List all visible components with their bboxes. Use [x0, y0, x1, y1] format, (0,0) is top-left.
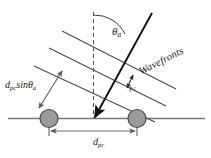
element-right [128, 110, 146, 128]
element-left [40, 110, 58, 128]
wavefront-line-2 [49, 48, 166, 106]
path-difference-label: dpcsinθa [5, 80, 36, 91]
wavefront-diagram: θa dpcsinθa Wavefronts λc dpc [0, 0, 211, 158]
wavefront-lines [34, 31, 176, 122]
spacing-label: dpc [93, 137, 104, 148]
path-difference-dimension [39, 71, 62, 108]
spacing-dimension [49, 126, 137, 136]
angle-label: θa [112, 26, 121, 39]
